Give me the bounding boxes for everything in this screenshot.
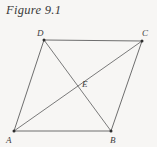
edge-da bbox=[14, 40, 44, 131]
vertex-label-d: D bbox=[36, 28, 44, 38]
vertex-label-c: C bbox=[142, 28, 149, 38]
vertex-dot-d bbox=[43, 39, 46, 42]
diagonal-db bbox=[44, 40, 111, 131]
figure-container: Figure 9.1 A B C D E bbox=[0, 0, 157, 147]
vertex-label-b: B bbox=[110, 135, 116, 145]
edge-cd bbox=[44, 40, 142, 41]
vertex-dot-a bbox=[13, 130, 16, 133]
vertex-dot-c bbox=[141, 40, 144, 43]
vertex-label-a: A bbox=[5, 135, 12, 145]
edge-bc bbox=[111, 41, 142, 131]
diagram-diagonals bbox=[14, 40, 142, 131]
vertex-label-e: E bbox=[81, 79, 88, 89]
vertex-dot-b bbox=[110, 130, 113, 133]
parallelogram-diagram: A B C D E bbox=[0, 0, 157, 147]
